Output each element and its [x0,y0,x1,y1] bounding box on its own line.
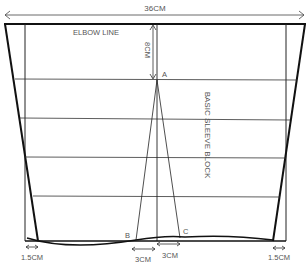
dart-right-arrow [157,242,180,246]
dart-left-arrow [132,247,155,251]
width-label: 36CM [144,4,166,13]
dart-line-ab [136,80,157,240]
right-offset-arrow [273,246,285,250]
elbow-line-label: ELBOW LINE [73,28,119,37]
left-offset-arrow [26,245,38,249]
dart-right-label: 3CM [162,251,178,260]
outer-right-side [273,24,305,241]
point-c-label: C [183,227,189,236]
left-offset-label: 1.5CM [21,253,43,262]
point-b-label: B [125,231,130,240]
right-offset-label: 1.5CM [268,253,290,262]
depth-label: 8CM [143,42,152,58]
dart-line-ac [157,80,180,238]
horizontal-guides [15,79,297,197]
sleeve-pattern-diagram: 36CM 8CM ELBOW LINE A B C BASIC SLEEVE B… [0,0,307,270]
outer-left-side [5,24,38,241]
point-a-label: A [162,70,167,79]
diagram-title: BASIC SLEEVE BLOCK [203,92,212,179]
dart-left-label: 3CM [135,255,151,264]
